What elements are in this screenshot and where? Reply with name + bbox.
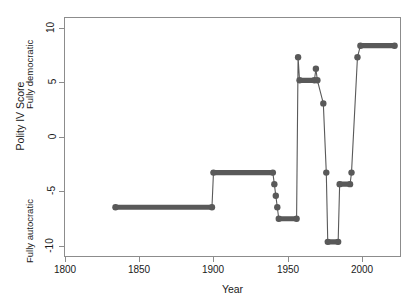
x-axis-title: Year: [64, 283, 401, 295]
data-point-13: [314, 77, 320, 83]
x-tick-mark-1900: [213, 257, 214, 262]
polity-score-chart-figure: 1800 1850 1900 1950 2000 10 5 0 -5 -10 F…: [0, 0, 416, 305]
x-tick-mark-1850: [139, 257, 140, 262]
annotation-fully-autocratic: Fully autocratic: [24, 199, 35, 263]
data-point-4: [271, 181, 277, 187]
y-tick-mark-10: [59, 28, 64, 29]
plot-svg: [65, 18, 402, 258]
data-point-17: [335, 239, 341, 245]
y-tick-label-5-text: 5: [48, 79, 59, 85]
data-point-10: [296, 77, 302, 83]
data-point-6: [274, 204, 280, 210]
data-point-0: [112, 204, 118, 210]
y-tick-mark-5: [59, 82, 64, 83]
x-tick-label-1950: 1950: [268, 264, 308, 275]
y-tick-label-neg10-text: -10: [43, 238, 54, 252]
y-tick-mark-0: [59, 137, 64, 138]
data-point-21: [354, 54, 360, 60]
data-point-18: [336, 181, 342, 187]
x-tick-mark-2000: [362, 257, 363, 262]
data-point-12: [313, 66, 319, 72]
x-tick-label-1800: 1800: [45, 264, 85, 275]
data-point-8: [293, 216, 299, 222]
y-tick-label-10: 10: [0, 22, 56, 33]
y-tick-label-0: 0: [0, 131, 56, 142]
y-tick-label-0-text: 0: [48, 134, 59, 140]
data-point-9: [295, 54, 301, 60]
x-tick-label-1900: 1900: [193, 264, 233, 275]
x-tick-label-2000: 2000: [342, 264, 382, 275]
data-point-5: [273, 192, 279, 198]
data-point-19: [347, 181, 353, 187]
y-axis-title: Polity IV Score: [14, 36, 26, 196]
y-tick-label-10-text: 10: [45, 22, 56, 33]
y-tick-label-neg5: -5: [0, 185, 56, 196]
y-tick-label-neg5-text: -5: [46, 186, 57, 195]
data-line-polyline: [115, 46, 394, 242]
x-tick-mark-1800: [65, 257, 66, 262]
y-tick-mark-neg10: [59, 246, 64, 247]
plot-panel: [64, 17, 401, 257]
data-point-23: [391, 42, 397, 48]
data-point-1: [209, 204, 215, 210]
data-point-16: [325, 239, 331, 245]
data-point-22: [357, 42, 363, 48]
y-tick-mark-neg5: [59, 191, 64, 192]
x-tick-mark-1950: [288, 257, 289, 262]
data-point-3: [270, 169, 276, 175]
data-point-14: [320, 100, 326, 106]
data-point-20: [348, 169, 354, 175]
x-tick-label-1850: 1850: [119, 264, 159, 275]
data-point-2: [210, 169, 216, 175]
data-point-7: [276, 216, 282, 222]
data-point-15: [323, 169, 329, 175]
